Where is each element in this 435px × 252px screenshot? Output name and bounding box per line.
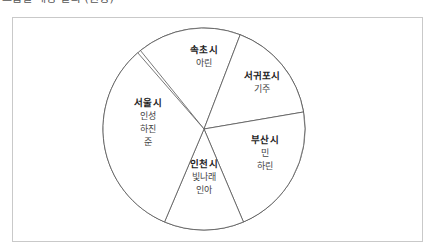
pie-container: 속초시아린서귀포시기주부산시민하린인천시빛나래인아서울시인성하진준: [0, 0, 435, 252]
pie-chart-figure: 그룹별 배정 결과 (원형) 속초시아린서귀포시기주부산시민하린인천시빛나래인아…: [0, 0, 435, 252]
pie-svg: [0, 0, 435, 252]
